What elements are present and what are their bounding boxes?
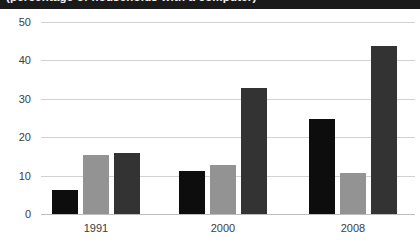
x-tick-label-2008: 2008	[309, 222, 397, 234]
bar-2008-series-1	[309, 119, 335, 214]
gridline-50	[41, 22, 415, 23]
y-tick-label-30: 30	[0, 94, 31, 105]
y-tick-label-20: 20	[0, 132, 31, 143]
y-tick-label-10: 10	[0, 171, 31, 182]
bar-1991-series-1	[52, 190, 78, 214]
bar-2000-series-3	[241, 88, 267, 214]
y-tick-label-40: 40	[0, 55, 31, 66]
bar-1991-series-3	[114, 153, 140, 214]
gridline-30	[41, 99, 415, 100]
bar-chart: (percentage of households with a compute…	[0, 0, 420, 246]
x-tick-label-2000: 2000	[179, 222, 267, 234]
title-divider	[0, 9, 420, 11]
y-tick-label-50: 50	[0, 17, 31, 28]
bar-2008-series-2	[340, 173, 366, 214]
bar-1991-series-2	[83, 155, 109, 214]
bar-2000-series-2	[210, 165, 236, 214]
chart-title: (percentage of households with a compute…	[6, 0, 257, 4]
y-tick-label-0: 0	[0, 209, 31, 220]
gridline-40	[41, 60, 415, 61]
chart-title-banner: (percentage of households with a compute…	[0, 0, 420, 9]
plot-area: 01020304050	[41, 22, 415, 214]
bar-2008-series-3	[371, 46, 397, 214]
gridline-20	[41, 137, 415, 138]
gridline-0	[41, 214, 415, 215]
x-tick-label-1991: 1991	[52, 222, 140, 234]
bar-2000-series-1	[179, 171, 205, 214]
